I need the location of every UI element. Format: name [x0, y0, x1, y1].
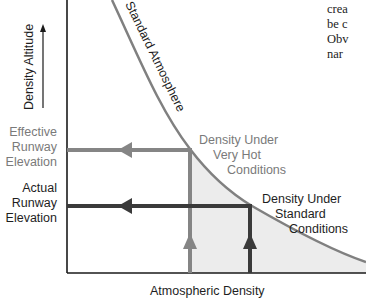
y-axis-label: Density Altitude: [22, 24, 36, 110]
label-line: Elevation: [0, 155, 57, 170]
very-hot-annotation: Density Under Very Hot Conditions: [199, 133, 309, 178]
body-text-fragment: crea be c Obv nar: [327, 2, 349, 62]
label-line: Effective: [0, 125, 57, 140]
actual-runway-elevation-label: Actual Runway Elevation: [0, 181, 57, 226]
text-line: Obv: [327, 32, 349, 47]
x-axis-label: Atmospheric Density: [150, 284, 265, 299]
annotation-line: Density Under: [199, 133, 309, 148]
label-line: Elevation: [0, 211, 57, 226]
standard-annotation: Density Under Standard Conditions: [262, 192, 366, 237]
annotation-line: Very Hot: [199, 148, 309, 163]
annotation-line: Conditions: [262, 222, 366, 237]
effective-runway-elevation-label: Effective Runway Elevation: [0, 125, 57, 170]
label-line: Runway: [0, 140, 57, 155]
text-line: be c: [327, 17, 349, 32]
annotation-line: Conditions: [199, 163, 309, 178]
up-arrow-icon: [40, 24, 46, 32]
annotation-line: Standard: [262, 207, 366, 222]
label-line: Runway: [0, 196, 57, 211]
text-line: crea: [327, 2, 349, 17]
text-line: nar: [327, 47, 349, 62]
label-line: Actual: [0, 181, 57, 196]
annotation-line: Density Under: [262, 192, 366, 207]
